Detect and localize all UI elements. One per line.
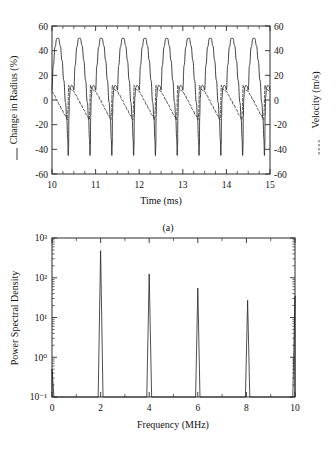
panel-b-x-axis-title: Frequency (MHz) — [137, 419, 209, 431]
panel-b-ytick-3: 10² — [35, 273, 48, 283]
panel-a-xtick-1: 11 — [91, 180, 100, 190]
panel-a-ytick-left-0: 60 — [39, 22, 49, 32]
panel-b-axes — [52, 238, 295, 397]
panel-b-xtick-1: 2 — [98, 403, 103, 413]
panel-a-ytick-right-0: 60 — [274, 22, 284, 32]
panel-b-axis-titles: Power Spectral Density Frequency (MHz) — [9, 271, 209, 431]
panel-b-power-spectral-density: 10⁻¹10⁰10¹10²10³ 0246810 Power Spectral … — [0, 230, 336, 459]
panel-a-xtick-3: 13 — [178, 180, 188, 190]
panel-b-series — [52, 251, 295, 397]
panel-a-xtick-5: 15 — [265, 180, 275, 190]
panel-b-ytick-0: 10⁻¹ — [30, 392, 48, 402]
panel-a-ytick-left-3: 0 — [43, 96, 48, 106]
figure-container: 60 40 20 0 -20 -40 -60 60 40 20 0 — [0, 0, 336, 459]
panel-a-axes — [52, 26, 270, 174]
panel-b-ytick-4: 10³ — [35, 233, 48, 243]
panel-b-xtick-4: 8 — [244, 403, 249, 413]
panel-a-ytick-left-1: 40 — [39, 46, 49, 56]
series-change-in-radius — [52, 38, 270, 155]
panel-b-ytick-1: 10⁰ — [34, 353, 48, 363]
panel-a-xtick-0: 10 — [47, 180, 57, 190]
panel-b-y-ticks: 10⁻¹10⁰10¹10²10³ — [30, 233, 295, 402]
panel-b-y-axis-title: Power Spectral Density — [9, 271, 20, 365]
panel-a-xtick-2: 12 — [134, 180, 144, 190]
series-power-spectral-density — [52, 251, 295, 397]
panel-a-ytick-right-6: -60 — [274, 170, 287, 180]
panel-a-ytick-right-5: -40 — [274, 145, 287, 155]
panel-a-series — [52, 38, 270, 155]
panel-a-xtick-4: 14 — [222, 180, 232, 190]
panel-a-right-y-ticks: 60 40 20 0 -20 -40 -60 — [265, 22, 287, 180]
panel-a-ytick-right-3: 0 — [274, 96, 279, 106]
panel-b-xtick-0: 0 — [50, 403, 55, 413]
panel-a-ytick-right-1: 40 — [274, 46, 284, 56]
panel-b-x-ticks: 0246810 — [50, 238, 300, 413]
panel-a-ytick-left-2: 20 — [39, 71, 49, 81]
panel-b-xtick-2: 4 — [147, 403, 152, 413]
panel-a-ytick-left-5: -40 — [35, 145, 48, 155]
panel-a-ytick-left-6: -60 — [35, 170, 48, 180]
panel-a-x-axis-title: Time (ms) — [140, 195, 182, 207]
panel-a-right-axis-title: Velocity (m/s) — [310, 72, 322, 129]
panel-a-ytick-right-2: 20 — [274, 71, 284, 81]
panel-a-svg: 60 40 20 0 -20 -40 -60 60 40 20 0 — [0, 0, 336, 240]
panel-a-left-axis-title: Change in Radius (%) — [8, 56, 20, 145]
panel-b-xtick-5: 10 — [290, 403, 300, 413]
panel-a-ytick-left-4: -20 — [35, 120, 48, 130]
panel-a-time-series: 60 40 20 0 -20 -40 -60 60 40 20 0 — [0, 0, 336, 240]
panel-b-ytick-2: 10¹ — [35, 313, 48, 323]
panel-b-svg: 10⁻¹10⁰10¹10²10³ 0246810 Power Spectral … — [0, 230, 336, 459]
panel-b-xtick-3: 6 — [195, 403, 200, 413]
panel-a-ytick-right-4: -20 — [274, 120, 287, 130]
panel-a-left-y-ticks: 60 40 20 0 -20 -40 -60 — [35, 22, 57, 180]
